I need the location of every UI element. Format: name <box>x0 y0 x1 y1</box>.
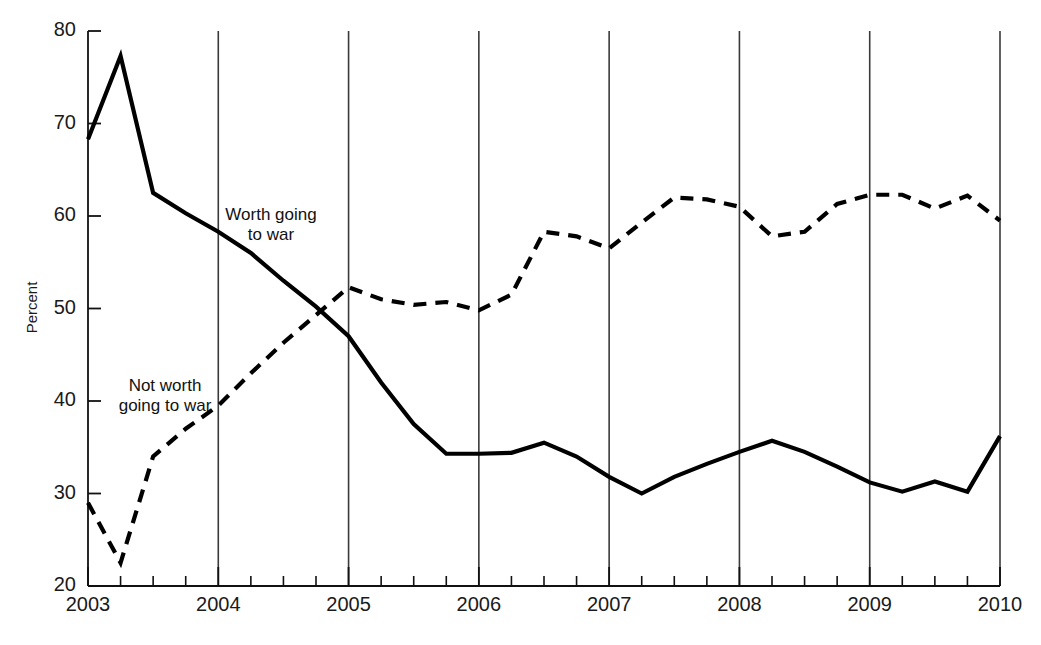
chart-container: 20304050607080 2003200420052006200720082… <box>0 0 1041 645</box>
series-line-solid <box>88 56 1000 494</box>
x-tick-label-2008: 2008 <box>694 593 784 616</box>
data-series-lines <box>88 56 1000 563</box>
series-line-dashed <box>88 195 1000 563</box>
x-tick-label-2009: 2009 <box>825 593 915 616</box>
chart-axes <box>88 31 1000 586</box>
y-tick-label-60: 60 <box>54 203 76 226</box>
worth-going-to-war-label: Worth going to war <box>225 205 316 244</box>
y-tick-label-40: 40 <box>54 388 76 411</box>
y-tick-label-70: 70 <box>54 111 76 134</box>
y-tick-label-30: 30 <box>54 481 76 504</box>
not-worth-going-to-war-label: Not worth going to war <box>119 376 212 415</box>
y-axis-title: Percent <box>23 281 40 333</box>
x-tick-label-2003: 2003 <box>43 593 133 616</box>
y-tick-label-50: 50 <box>54 296 76 319</box>
axis-tick-marks <box>88 31 1000 586</box>
line-chart-plot <box>0 0 1041 645</box>
x-tick-label-2006: 2006 <box>434 593 524 616</box>
vertical-gridlines <box>218 31 1000 586</box>
x-tick-label-2004: 2004 <box>173 593 263 616</box>
x-tick-label-2007: 2007 <box>564 593 654 616</box>
x-tick-label-2005: 2005 <box>304 593 394 616</box>
x-tick-label-2010: 2010 <box>955 593 1041 616</box>
y-tick-label-80: 80 <box>54 18 76 41</box>
